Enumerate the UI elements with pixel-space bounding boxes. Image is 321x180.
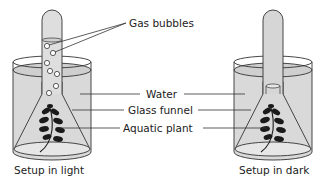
- test-tube-dark: [263, 10, 283, 94]
- gas-bubble: [47, 68, 52, 73]
- label-aquatic-plant: Aquatic plant: [123, 122, 193, 134]
- tube-liquid-level-light: [42, 38, 62, 42]
- setup-light: [13, 10, 91, 160]
- label-water: Water: [146, 88, 178, 100]
- gas-bubble: [46, 90, 51, 95]
- gas-bubble: [53, 83, 58, 88]
- funnel-base-light: [14, 142, 90, 156]
- caption-setup-light: Setup in light: [14, 164, 84, 176]
- funnel-neck-inner-dark: [266, 84, 280, 88]
- gas-bubble: [44, 43, 49, 48]
- label-glass-funnel: Glass funnel: [128, 104, 193, 116]
- funnel-base-dark: [235, 142, 311, 156]
- diagram-canvas: Gas bubbles Water Glass funnel Aquatic p…: [0, 0, 321, 180]
- gas-bubble: [54, 71, 59, 76]
- gas-bubble: [50, 50, 55, 55]
- label-gas-bubbles: Gas bubbles: [129, 17, 194, 29]
- caption-setup-dark: Setup in dark: [239, 164, 310, 176]
- setup-dark: [234, 10, 312, 160]
- gas-bubble: [44, 60, 49, 65]
